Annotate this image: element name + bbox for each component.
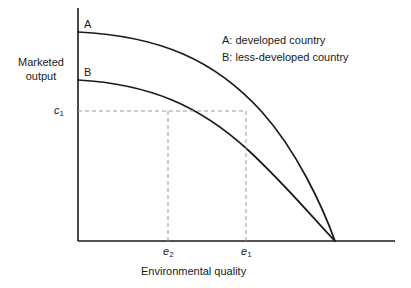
y-axis-title-line1: Marketed [8, 55, 74, 69]
y-tick-label-c1-text: c [54, 104, 60, 116]
y-axis-title-line2: output [8, 69, 74, 83]
y-tick-label-c1: c1 [54, 104, 64, 118]
curve-a-label: A [84, 18, 91, 31]
legend-entry-b: B: less-developed country [222, 49, 349, 66]
y-axis-title: Marketed output [8, 55, 74, 83]
x-tick-label-e1-subscript: 1 [247, 250, 251, 259]
x-tick-label-e2: e2 [163, 245, 174, 259]
legend: A: developed country B: less-developed c… [222, 32, 349, 66]
x-tick-label-e2-subscript: 2 [169, 250, 173, 259]
x-tick-label-e1: e1 [241, 245, 252, 259]
x-axis-title: Environmental quality [141, 265, 246, 278]
curve-b-label: B [84, 66, 91, 79]
y-tick-label-c1-subscript: 1 [60, 109, 64, 118]
figure-container: Marketed output Environmental quality A … [0, 0, 411, 288]
legend-entry-a: A: developed country [222, 32, 349, 49]
plot-area [0, 0, 411, 288]
